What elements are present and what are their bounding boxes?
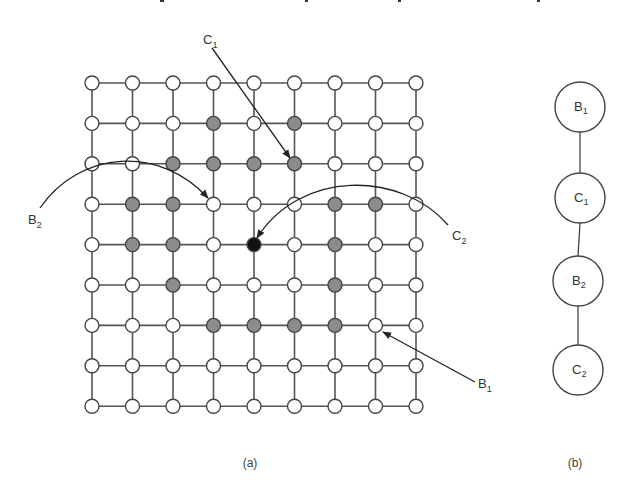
grid-node-white: [369, 116, 383, 130]
grid-node-white: [126, 359, 140, 373]
grid-node-white: [126, 318, 140, 332]
grid-node-white: [207, 197, 221, 211]
grid-node-white: [207, 399, 221, 413]
grid-node-white: [166, 318, 180, 332]
grid-node-gray: [328, 318, 342, 332]
grid-node-white: [288, 399, 302, 413]
grid-node-white: [288, 278, 302, 292]
grid-node-white: [369, 76, 383, 90]
grid-node-white: [328, 76, 342, 90]
grid-node-white: [126, 278, 140, 292]
grid-node-gray: [328, 197, 342, 211]
grid-node-white: [369, 359, 383, 373]
panel-b-tree: B1C1B2C2: [553, 82, 605, 395]
figure: C1B2C2B1 (a) B1C1B2C2 (b): [0, 0, 635, 498]
annotation-label-c1: C1: [203, 32, 217, 50]
grid-node-white: [247, 399, 261, 413]
grid-node-white: [207, 359, 221, 373]
grid-node-white: [85, 278, 99, 292]
grid-node-white: [207, 238, 221, 252]
grid-node-black: [247, 238, 261, 252]
grid-node-gray: [328, 238, 342, 252]
annotation-label-b2: B2: [28, 212, 42, 230]
grid-node-gray: [247, 157, 261, 171]
grid-node-white: [369, 399, 383, 413]
annotation-label-b1: B1: [478, 376, 492, 394]
grid-node-white: [247, 116, 261, 130]
grid-node-white: [409, 399, 423, 413]
grid-node-white: [409, 238, 423, 252]
caption-a: (a): [243, 456, 258, 470]
grid-node-gray: [207, 318, 221, 332]
grid-node-white: [85, 197, 99, 211]
grid-node-white: [85, 116, 99, 130]
grid-node-gray: [126, 197, 140, 211]
arrow-c1: [212, 48, 290, 158]
grid-node-white: [85, 76, 99, 90]
grid-node-gray: [166, 197, 180, 211]
grid-node-white: [126, 399, 140, 413]
grid-node-gray: [288, 157, 302, 171]
grid-node-white: [166, 359, 180, 373]
grid-node-white: [85, 238, 99, 252]
grid-node-white: [207, 278, 221, 292]
grid-node-white: [328, 116, 342, 130]
grid-node-white: [328, 399, 342, 413]
grid-node-white: [409, 359, 423, 373]
grid-node-white: [247, 197, 261, 211]
grid-node-white: [126, 76, 140, 90]
arrow-c2: [257, 185, 448, 238]
grid-node-white: [409, 76, 423, 90]
grid-node-white: [409, 157, 423, 171]
panel-a-grid-graph: [85, 76, 423, 413]
grid-node-gray: [369, 197, 383, 211]
annotation-label-c2: C2: [452, 228, 466, 246]
tree-edge: [578, 223, 580, 256]
grid-node-white: [288, 76, 302, 90]
grid-node-gray: [328, 278, 342, 292]
caption-b: (b): [568, 456, 583, 470]
grid-node-white: [369, 318, 383, 332]
grid-node-white: [247, 76, 261, 90]
cropped-top-text: [160, 0, 540, 2]
arrow-b2: [40, 161, 208, 208]
grid-node-gray: [207, 157, 221, 171]
grid-node-white: [288, 238, 302, 252]
grid-node-white: [85, 399, 99, 413]
grid-node-white: [85, 359, 99, 373]
grid-node-white: [288, 359, 302, 373]
grid-node-white: [126, 116, 140, 130]
grid-node-white: [166, 399, 180, 413]
grid-node-gray: [207, 116, 221, 130]
arrow-b1: [383, 332, 475, 382]
grid-node-gray: [166, 278, 180, 292]
grid-node-white: [247, 359, 261, 373]
grid-node-gray: [126, 238, 140, 252]
grid-nodes: [85, 76, 423, 413]
grid-node-white: [328, 359, 342, 373]
grid-node-gray: [166, 157, 180, 171]
grid-node-white: [85, 318, 99, 332]
grid-node-gray: [288, 318, 302, 332]
grid-node-white: [409, 318, 423, 332]
grid-node-white: [126, 157, 140, 171]
grid-node-white: [166, 116, 180, 130]
grid-node-white: [247, 278, 261, 292]
grid-node-gray: [247, 318, 261, 332]
grid-node-white: [409, 278, 423, 292]
grid-node-white: [409, 116, 423, 130]
grid-node-white: [207, 76, 221, 90]
grid-node-gray: [288, 116, 302, 130]
grid-node-white: [369, 238, 383, 252]
grid-node-white: [166, 76, 180, 90]
grid-node-white: [369, 278, 383, 292]
grid-node-white: [369, 157, 383, 171]
grid-node-white: [328, 157, 342, 171]
grid-node-gray: [166, 238, 180, 252]
